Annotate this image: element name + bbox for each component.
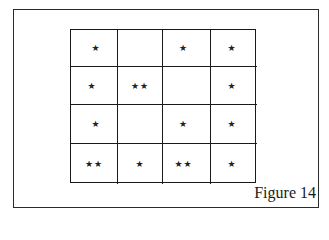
grid-cell-r2-c1: ★ (71, 67, 118, 105)
grid-cell-r1-c2 (118, 30, 163, 67)
figure-caption: Figure 14 (254, 185, 316, 201)
grid-cell-r3-c4: ★ (211, 105, 257, 144)
grid-cell-r3-c3: ★ (163, 105, 211, 144)
grid-cell-r3-c1: ★ (71, 105, 118, 144)
grid-cell-r1-c3: ★ (163, 30, 211, 67)
star-grid: ★ ★ ★ ★ ★★ ★ ★ ★ ★ ★★ ★ ★★ ★ (70, 29, 256, 183)
grid-cell-r4-c1: ★★ (71, 144, 118, 184)
grid-cell-r2-c2: ★★ (118, 67, 163, 105)
grid-cell-r3-c2 (118, 105, 163, 144)
grid-cell-r2-c3 (163, 67, 211, 105)
grid-cell-r4-c4: ★ (211, 144, 257, 184)
grid-cell-r1-c4: ★ (211, 30, 257, 67)
grid-cell-r4-c2: ★ (118, 144, 163, 184)
grid-cell-r1-c1: ★ (71, 30, 118, 67)
grid-cell-r2-c4: ★ (211, 67, 257, 105)
grid-cell-r4-c3: ★★ (163, 144, 211, 184)
